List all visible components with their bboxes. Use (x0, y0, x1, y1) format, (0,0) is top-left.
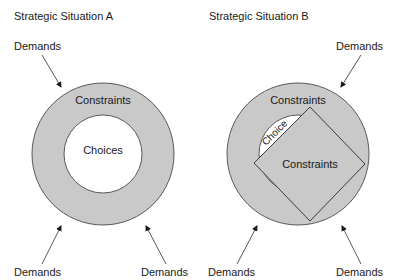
demands-label-b-top: Demands (336, 40, 384, 52)
demand-arrow-b-top (341, 55, 361, 87)
demands-label-a-bottom-left: Demands (14, 266, 62, 278)
choices-label-a: Choices (83, 144, 123, 156)
demand-arrow-b-bottom-left (237, 226, 257, 264)
demand-arrow-b-bottom-right (342, 226, 361, 264)
constraints-label-b: Constraints (270, 94, 326, 106)
panel-b-title: Strategic Situation B (209, 10, 309, 22)
demands-label-a-bottom-right: Demands (141, 266, 189, 278)
demands-label-b-bottom-left: Demands (208, 266, 256, 278)
panel-b: Strategic Situation B Constraints Constr… (208, 10, 384, 278)
constraints-label-a: Constraints (75, 94, 131, 106)
demand-arrow-a-top (42, 55, 61, 87)
diagram-canvas: Strategic Situation A Constraints Choice… (0, 0, 395, 280)
diamond-constraints-label-b: Constraints (282, 158, 338, 170)
demands-label-a-top: Demands (14, 40, 62, 52)
demands-label-b-bottom-right: Demands (336, 266, 384, 278)
panel-a: Strategic Situation A Constraints Choice… (14, 10, 189, 278)
panel-a-title: Strategic Situation A (14, 10, 114, 22)
demand-arrow-a-bottom-left (42, 226, 61, 264)
demand-arrow-a-bottom-right (146, 226, 166, 264)
